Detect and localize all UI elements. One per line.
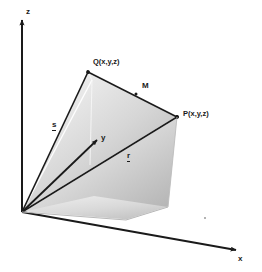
vector-label-r-wrap: r xyxy=(127,152,130,162)
vector-label-r: r xyxy=(127,152,130,160)
vector-r-underbar xyxy=(127,161,130,162)
axis-label-x: x xyxy=(238,255,242,263)
vector-s-underbar xyxy=(52,130,56,131)
axis-label-z: z xyxy=(26,8,30,16)
diagram-canvas xyxy=(0,0,262,272)
vector-label-s: s xyxy=(52,121,56,129)
point-label-P: P(x,y,z) xyxy=(183,110,209,118)
vector-label-s-wrap: s xyxy=(52,121,56,131)
vector-label-M: M xyxy=(142,82,149,90)
M-midpoint-marker xyxy=(135,93,138,96)
point-label-Q: Q(x,y,z) xyxy=(93,58,120,66)
scan-speck-artifact xyxy=(204,217,206,219)
axis-label-y: y xyxy=(101,134,105,142)
